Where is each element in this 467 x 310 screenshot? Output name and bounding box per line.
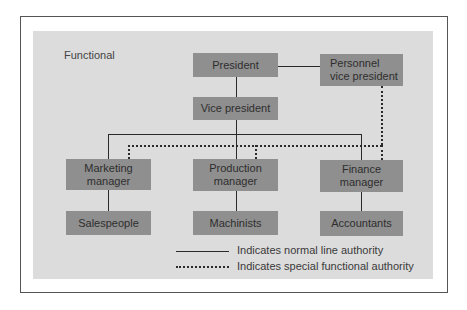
line-to-finance [361,134,362,160]
node-salespeople: Salespeople [66,211,151,235]
node-personnel-vp: Personnel vice president [320,54,403,86]
legend-solid-label: Indicates normal line authority [237,244,383,256]
legend-solid-line [176,251,229,252]
dotted-from-personnel [381,86,383,145]
node-machinists-label: Machinists [210,217,262,230]
diagram-title: Functional [64,49,115,61]
line-finance-accountants [361,192,362,211]
node-personnel-vp-line2: vice president [330,70,398,82]
legend-dotted-label: Indicates special functional authority [237,260,414,272]
node-accountants-label: Accountants [331,217,392,230]
node-vice-president-label: Vice president [201,102,271,115]
node-salespeople-label: Salespeople [78,217,139,230]
node-finance-line1: Finance [342,163,381,175]
dotted-to-marketing [128,145,130,159]
node-president: President [193,53,278,77]
node-marketing-line1: Marketing [84,162,132,174]
node-accountants: Accountants [320,211,403,236]
node-president-label: President [212,59,258,72]
line-marketing-sales [108,190,109,211]
node-marketing-manager: Marketing manager [66,159,151,190]
node-personnel-vp-line1: Personnel [330,57,380,69]
line-president-vp [236,77,237,97]
node-vice-president: Vice president [193,97,278,120]
node-production-manager: Production manager [193,159,278,191]
node-machinists: Machinists [193,211,278,235]
dotted-to-production [255,145,257,159]
node-production-line1: Production [209,162,262,174]
line-production-machinists [236,191,237,211]
line-managers-horizontal [108,134,362,135]
node-finance-line2: manager [340,176,383,188]
node-marketing-line2: manager [87,175,130,187]
node-production-line2: manager [214,175,257,187]
dotted-to-finance [381,145,383,160]
line-vp-down [236,120,237,159]
legend-dotted-line [176,266,229,268]
node-finance-manager: Finance manager [320,160,403,192]
line-president-personnel [278,66,320,67]
line-to-marketing [108,134,109,159]
